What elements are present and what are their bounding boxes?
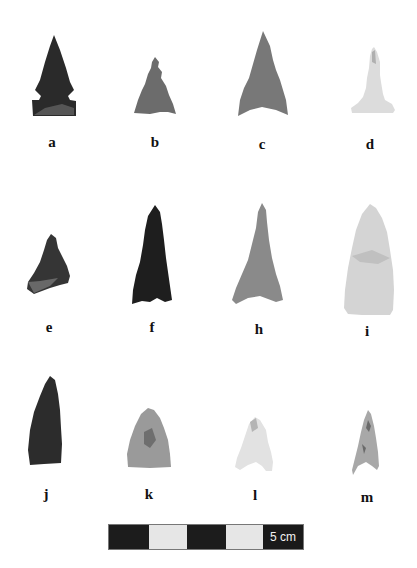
specimen-a-image	[32, 35, 76, 116]
specimen-label-a: a	[48, 135, 56, 150]
specimen-f-image	[132, 205, 172, 304]
scale-segment-1	[109, 525, 149, 549]
scale-bar: 5 cm	[108, 524, 304, 550]
scale-segment-2	[149, 525, 187, 549]
specimen-m-image	[352, 410, 379, 475]
scale-segment-3	[187, 525, 226, 549]
artifact-images	[0, 0, 417, 568]
specimen-label-k: k	[145, 487, 153, 502]
specimen-label-m: m	[361, 490, 374, 505]
scale-label: 5 cm	[263, 525, 303, 549]
projectile-points-figure: a b c d e f h i j k l m 5 cm	[0, 0, 417, 568]
specimen-label-i: i	[365, 324, 369, 339]
specimen-j-image	[28, 376, 62, 465]
specimen-label-c: c	[259, 137, 266, 152]
scale-segment-4	[226, 525, 263, 549]
specimen-label-l: l	[253, 488, 257, 503]
specimen-label-d: d	[366, 137, 374, 152]
specimen-label-h: h	[255, 322, 263, 337]
specimen-label-b: b	[151, 135, 159, 150]
specimen-c-image	[238, 31, 288, 116]
specimen-h-image	[232, 203, 283, 304]
specimen-label-j: j	[44, 487, 49, 502]
specimen-label-f: f	[150, 320, 155, 335]
specimen-label-e: e	[46, 320, 53, 335]
specimen-b-image	[134, 57, 176, 114]
